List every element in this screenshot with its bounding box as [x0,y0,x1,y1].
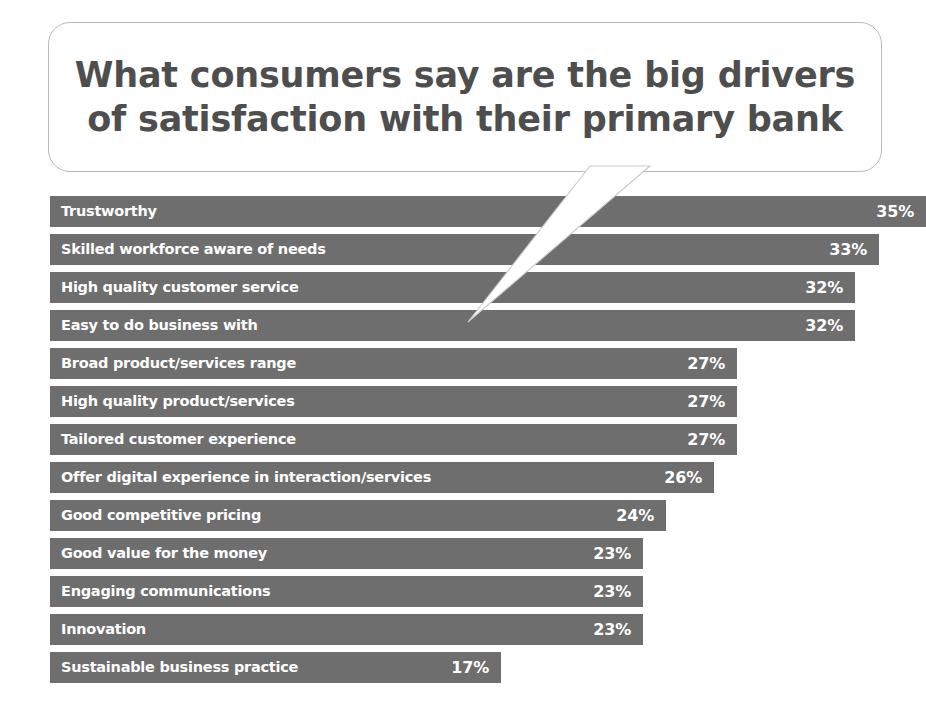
bar-category-label: Good competitive pricing [61,508,261,523]
bar-row: Engaging communications23% [0,576,916,607]
bar-category-label: Skilled workforce aware of needs [61,242,326,257]
bar: Easy to do business with32% [50,310,855,341]
bar-value-label: 26% [664,470,702,486]
bar: Sustainable business practice17% [50,652,501,683]
bar-category-label: Engaging communications [61,584,270,599]
bar-value-label: 33% [829,242,867,258]
bar-category-label: Good value for the money [61,546,267,561]
bar-category-label: Tailored customer experience [61,432,296,447]
bar-row: Trustworthy35% [0,196,916,227]
bar-row: High quality product/services27% [0,386,916,417]
bar-category-label: High quality customer service [61,280,299,295]
bar-value-label: 32% [805,318,843,334]
bar: Good competitive pricing24% [50,500,666,531]
bar-row: High quality customer service32% [0,272,916,303]
bar: Offer digital experience in interaction/… [50,462,714,493]
callout-bubble: What consumers say are the big drivers o… [48,22,882,172]
bar-row: Easy to do business with32% [0,310,916,341]
bar-category-label: Easy to do business with [61,318,258,333]
bar-row: Tailored customer experience27% [0,424,916,455]
bar: Skilled workforce aware of needs33% [50,234,879,265]
bar-row: Innovation23% [0,614,916,645]
page-title: What consumers say are the big drivers o… [75,53,855,141]
bar-value-label: 35% [876,204,914,220]
bar-row: Good value for the money23% [0,538,916,569]
bar-value-label: 17% [451,660,489,676]
bar: Innovation23% [50,614,643,645]
bar: Broad product/services range27% [50,348,737,379]
bar-value-label: 32% [805,280,843,296]
bar-row: Broad product/services range27% [0,348,916,379]
bar-category-label: Offer digital experience in interaction/… [61,470,431,485]
bar-value-label: 27% [687,432,725,448]
bar: High quality customer service32% [50,272,855,303]
bar-value-label: 23% [593,546,631,562]
bar: Trustworthy35% [50,196,926,227]
bar: Tailored customer experience27% [50,424,737,455]
bar-category-label: High quality product/services [61,394,295,409]
bar: Good value for the money23% [50,538,643,569]
bar-category-label: Sustainable business practice [61,660,298,675]
bar-row: Skilled workforce aware of needs33% [0,234,916,265]
bar-value-label: 27% [687,394,725,410]
bar: High quality product/services27% [50,386,737,417]
bar-value-label: 27% [687,356,725,372]
bar-row: Sustainable business practice17% [0,652,916,683]
bar-row: Good competitive pricing24% [0,500,916,531]
bar-category-label: Trustworthy [61,204,157,219]
bar-category-label: Innovation [61,622,146,637]
bar-chart: Trustworthy35%Skilled workforce aware of… [0,196,916,706]
bar: Engaging communications23% [50,576,643,607]
bar-value-label: 23% [593,622,631,638]
bar-value-label: 24% [616,508,654,524]
bar-row: Offer digital experience in interaction/… [0,462,916,493]
bar-value-label: 23% [593,584,631,600]
bar-category-label: Broad product/services range [61,356,296,371]
